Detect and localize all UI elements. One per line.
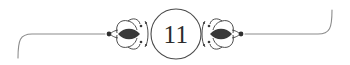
page-number: 11 [163,21,188,48]
right-flourish-bracket [202,21,205,47]
left-flourish-dot-lower [140,41,143,44]
left-hooked-rule [18,34,105,58]
left-vine-flourish [110,19,148,49]
ornament-graphic: 11 [0,0,350,65]
left-flourish-eye [118,29,140,40]
right-flourish-eye [210,29,232,40]
right-terminal-dot [239,32,244,37]
left-flourish-dot-upper [140,25,143,28]
page-number-ornament: 11 [0,0,350,65]
right-flourish-dot-lower [208,41,211,44]
left-terminal-dot [107,32,112,37]
right-vine-flourish [202,19,240,49]
right-hooked-rule [245,10,332,34]
right-flourish-dot-upper [208,25,211,28]
left-flourish-bracket [145,21,148,47]
